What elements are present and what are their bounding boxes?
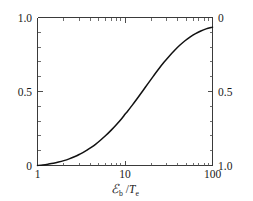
xtick-label-100: 100	[204, 168, 222, 180]
figure-container: 1.0 0.5 0 0 0.5 1.0 1 10 100 ℰb /Te	[0, 0, 253, 201]
top-axis-ticks	[38, 18, 213, 23]
chart-canvas: 1.0 0.5 0 0 0.5 1.0 1 10 100 ℰb /Te	[0, 0, 253, 201]
ytick-label-left-mid: 0.5	[18, 86, 33, 98]
ytick-label-right-mid: 0.5	[218, 86, 233, 98]
xtitle-denominator-subscript: e	[135, 189, 139, 198]
ytick-label-right-top: 0	[218, 12, 224, 24]
svg-text:ℰb /Te: ℰb /Te	[111, 182, 139, 198]
left-axis-ticks	[38, 18, 43, 166]
ytick-label-left-bottom: 0	[26, 160, 32, 172]
ytick-label-left-top: 1.0	[18, 12, 33, 24]
xtick-label-10: 10	[119, 168, 131, 180]
xtick-label-1: 1	[35, 168, 41, 180]
x-axis-title: ℰb /Te	[111, 182, 139, 198]
right-axis-ticks	[208, 18, 213, 166]
data-series-curve	[38, 27, 213, 165]
